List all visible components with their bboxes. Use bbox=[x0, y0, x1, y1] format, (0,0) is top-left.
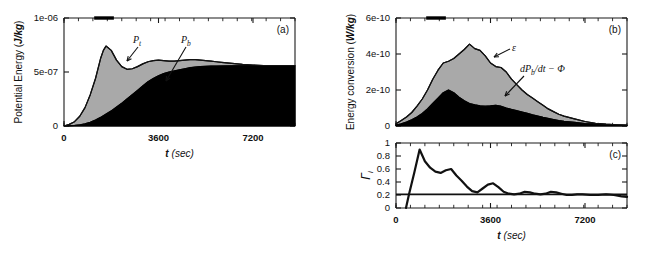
xtick-label: 7200 bbox=[242, 132, 263, 143]
ytick-label: 0.6 bbox=[377, 163, 390, 174]
ytick-label: 0 bbox=[385, 120, 390, 131]
ytick-label: 5e-07 bbox=[34, 66, 58, 77]
xtick-label: 0 bbox=[393, 214, 398, 225]
y-axis-title: Potential Energy (J/kg) bbox=[13, 21, 24, 124]
ytick-label: 0.2 bbox=[377, 189, 390, 200]
xtick-label: 3600 bbox=[480, 214, 501, 225]
pt-arrow bbox=[127, 47, 138, 61]
y-axis-title: Γi bbox=[359, 171, 375, 180]
ytick-label: 1 bbox=[385, 137, 390, 148]
ytick-label: 0.8 bbox=[377, 150, 390, 161]
ytick-label: 0.4 bbox=[377, 176, 390, 187]
ytick-label: 2e-10 bbox=[366, 84, 390, 95]
pt-label: Pt bbox=[132, 34, 142, 48]
epsilon-arrow bbox=[494, 49, 510, 57]
panel-a: 03600720005e-071e-06(a)t(sec)Potential E… bbox=[13, 12, 295, 159]
ytick-label: 4e-10 bbox=[366, 48, 390, 59]
xtick-label: 7200 bbox=[574, 214, 595, 225]
epsilon-label: ε bbox=[512, 42, 516, 53]
y-axis-title: Energy conversion (W/kg) bbox=[345, 14, 356, 130]
figure-canvas: 03600720005e-071e-06(a)t(sec)Potential E… bbox=[0, 0, 656, 260]
ytick-label: 1e-06 bbox=[34, 12, 58, 23]
dpbdt-label: dPb/dt − Φ bbox=[520, 63, 565, 77]
ytick-label: 0 bbox=[385, 202, 390, 213]
ytick-label: 0 bbox=[53, 120, 58, 131]
panel-tag: (a) bbox=[277, 24, 289, 35]
panel-tag: (c) bbox=[609, 149, 621, 160]
xtick-label: 3600 bbox=[148, 132, 169, 143]
panel-tag: (b) bbox=[609, 24, 621, 35]
panel-c: 03600720000.20.40.60.81(c)t(sec)Γi bbox=[359, 137, 627, 241]
xtick-label: 0 bbox=[61, 132, 66, 143]
x-axis-title: t(sec) bbox=[497, 230, 526, 241]
pb-label: Pb bbox=[180, 34, 191, 48]
curve-Gamma_i bbox=[406, 150, 627, 209]
ytick-label: 6e-10 bbox=[366, 12, 390, 23]
scientific-figure: 03600720005e-071e-06(a)t(sec)Potential E… bbox=[0, 0, 656, 260]
x-axis-title: t(sec) bbox=[165, 148, 194, 159]
panel-b: 02e-104e-106e-10(b)Energy conversion (W/… bbox=[345, 12, 627, 131]
